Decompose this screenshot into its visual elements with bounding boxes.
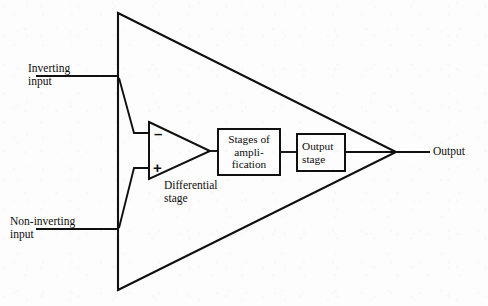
plus-terminal-sign: +: [153, 160, 162, 175]
stages-of-amplification-line3: fication: [232, 158, 267, 170]
plus-sign-glyph: +: [153, 159, 162, 176]
output-stage-line1: Output: [302, 140, 333, 152]
output-label: Output: [433, 145, 465, 158]
opamp-block-diagram: Invertinginput Non-invertinginput Output…: [0, 0, 488, 306]
differential-stage-label-line2: stage: [164, 192, 188, 204]
stages-of-amplification-line2: ampli-: [234, 146, 264, 158]
inverting-input-label-line1: Inverting: [28, 62, 70, 74]
inverting-input-label-line2: input: [28, 75, 52, 87]
output-stage-text: Outputstage: [297, 140, 345, 165]
inverting-input-label: Invertinginput: [28, 62, 70, 88]
differential-stage-label: Differentialstage: [164, 179, 217, 205]
minus-sign-glyph: –: [154, 125, 162, 142]
output-label-text: Output: [433, 145, 465, 157]
non-inverting-input-label-line2: input: [10, 228, 34, 240]
non-inverting-input-label: Non-invertinginput: [10, 215, 75, 241]
stages-of-amplification-line1: Stages of: [228, 133, 270, 145]
differential-stage-label-line1: Differential: [164, 179, 217, 191]
non-inverting-to-plus-wire: [119, 168, 149, 228]
stages-of-amplification-text: Stages ofampli-fication: [218, 133, 280, 171]
minus-terminal-sign: –: [154, 126, 162, 141]
inverting-to-minus-wire: [119, 78, 149, 133]
non-inverting-input-label-line1: Non-inverting: [10, 215, 75, 227]
output-stage-line2: stage: [302, 153, 325, 165]
